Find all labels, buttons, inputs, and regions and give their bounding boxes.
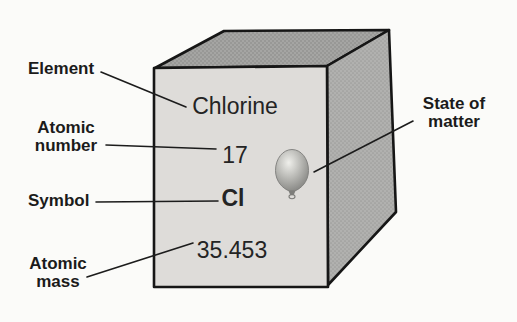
cube bbox=[154, 30, 396, 287]
cube-right-face bbox=[327, 30, 396, 285]
symbol-leader-line bbox=[96, 201, 218, 202]
element-name-value: Chlorine bbox=[192, 94, 278, 118]
atomic-mass-label: Atomic mass bbox=[18, 255, 98, 291]
symbol-value: Cl bbox=[222, 186, 245, 210]
element-label: Element bbox=[28, 60, 94, 78]
atomic-number-value: 17 bbox=[222, 143, 248, 167]
atomic-number-label: Atomic number bbox=[21, 119, 111, 155]
atomic-mass-value: 35.453 bbox=[197, 238, 267, 262]
symbol-label: Symbol bbox=[28, 192, 89, 210]
element-cube-diagram: Element Atomic number Symbol Atomic mass… bbox=[0, 0, 517, 322]
balloon-body bbox=[276, 150, 309, 192]
state-of-matter-label: State of matter bbox=[408, 95, 500, 131]
